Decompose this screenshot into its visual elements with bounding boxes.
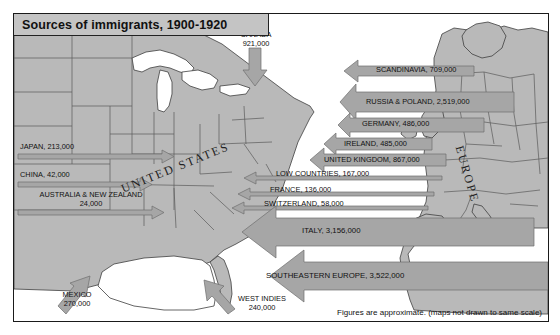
label-germany: GERMANY, 486,000: [362, 119, 429, 128]
japan-text: JAPAN, 213,000: [20, 142, 74, 151]
label-united-kingdom: UNITED KINGDOM, 867,000: [324, 155, 420, 164]
italy-text: ITALY, 3,156,000: [302, 226, 361, 235]
mexico-value: 270,000: [48, 299, 106, 308]
china-text: CHINA, 42,000: [20, 170, 70, 179]
australia-nz-name: AUSTRALIA & NEW ZEALAND: [18, 190, 164, 199]
low-countries-text: LOW COUNTRIES, 167,000: [276, 169, 369, 178]
west-indies-name: WEST INDIES: [226, 294, 298, 303]
page-title: Sources of immigrants, 1900-1920: [22, 18, 227, 32]
label-australia-nz: AUSTRALIA & NEW ZEALAND 24,000: [18, 190, 164, 208]
label-france: FRANCE, 136,000: [270, 185, 331, 194]
label-japan: JAPAN, 213,000: [20, 142, 74, 151]
map-figure: Sources of immigrants, 1900-1920 UNITED …: [13, 13, 549, 322]
label-low-countries: LOW COUNTRIES, 167,000: [276, 169, 369, 178]
mexico-name: MEXICO: [48, 290, 106, 299]
scandinavia-text: SCANDINAVIA, 709,000: [376, 65, 456, 74]
canada-value: 921,000: [230, 39, 282, 48]
label-russia-poland: RUSSIA & POLAND, 2,519,000: [366, 97, 470, 106]
label-west-indies: WEST INDIES 240,000: [226, 294, 298, 312]
label-china: CHINA, 42,000: [20, 170, 70, 179]
label-mexico: MEXICO 270,000: [48, 290, 106, 308]
west-indies-value: 240,000: [226, 303, 298, 312]
label-southeastern-europe: SOUTHEASTERN EUROPE, 3,522,000: [266, 271, 404, 280]
label-switzerland: SWITZERLAND, 58,000: [264, 199, 344, 208]
southeastern-europe-text: SOUTHEASTERN EUROPE, 3,522,000: [266, 271, 404, 280]
label-scandinavia: SCANDINAVIA, 709,000: [376, 65, 456, 74]
map-title-box: Sources of immigrants, 1900-1920: [14, 14, 269, 36]
united-kingdom-text: UNITED KINGDOM, 867,000: [324, 155, 420, 164]
germany-text: GERMANY, 486,000: [362, 119, 429, 128]
russia-poland-text: RUSSIA & POLAND, 2,519,000: [366, 97, 470, 106]
france-text: FRANCE, 136,000: [270, 185, 331, 194]
figure-footnote: Figures are approximate. (maps not drawn…: [337, 308, 542, 317]
switzerland-text: SWITZERLAND, 58,000: [264, 199, 344, 208]
australia-nz-value: 24,000: [18, 199, 164, 208]
ireland-text: IRELAND, 485,000: [344, 139, 407, 148]
label-italy: ITALY, 3,156,000: [302, 226, 361, 235]
footnote-text: Figures are approximate. (maps not drawn…: [337, 308, 542, 317]
label-ireland: IRELAND, 485,000: [344, 139, 407, 148]
